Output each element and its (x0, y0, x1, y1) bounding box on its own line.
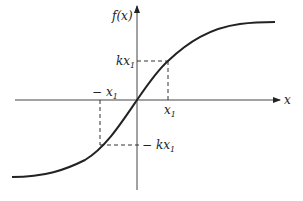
label-x1: x1 (164, 103, 176, 119)
x-axis-label: x (284, 93, 291, 107)
sigmoid-diagram: f(x) x kx1 x1 − x1 − kx1 (0, 0, 303, 201)
label-neg-kx1: − kx1 (142, 138, 175, 154)
label-kx1: kx1 (116, 54, 135, 70)
y-axis-label: f(x) (111, 9, 133, 23)
label-neg-x1: − x1 (92, 85, 118, 101)
